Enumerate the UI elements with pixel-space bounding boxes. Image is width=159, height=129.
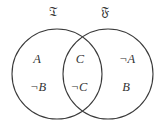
right-only-label-2: B bbox=[122, 80, 130, 94]
set-t-circle bbox=[12, 29, 102, 119]
set-f-label: 𝔉 bbox=[101, 4, 109, 19]
venn-diagram: 𝔗 𝔉 A ¬B C ¬C ¬A B bbox=[0, 0, 159, 129]
left-only-label-1: A bbox=[32, 52, 41, 66]
set-t-label: 𝔗 bbox=[49, 4, 58, 19]
set-f-circle bbox=[63, 29, 153, 119]
intersection-label-2: ¬C bbox=[71, 80, 88, 94]
intersection-label-1: C bbox=[76, 52, 85, 66]
right-only-label-1: ¬A bbox=[119, 52, 135, 66]
left-only-label-2: ¬B bbox=[30, 80, 46, 94]
